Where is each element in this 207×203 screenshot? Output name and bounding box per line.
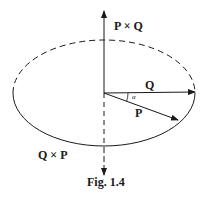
label-q-cross-p: Q × P — [38, 149, 68, 161]
label-vector-q: Q — [145, 79, 154, 91]
label-angle-alpha: α — [132, 94, 136, 101]
angle-alpha-arc — [127, 93, 129, 102]
label-p-cross-q: P × Q — [114, 20, 143, 32]
label-vector-p: P — [135, 107, 142, 119]
cross-product-figure: P × Q Q α P Q × P Fig. 1.4 — [0, 0, 207, 203]
vector-q-arrow — [104, 92, 195, 93]
figure-caption: Fig. 1.4 — [87, 176, 125, 188]
diagram-canvas — [0, 0, 207, 203]
